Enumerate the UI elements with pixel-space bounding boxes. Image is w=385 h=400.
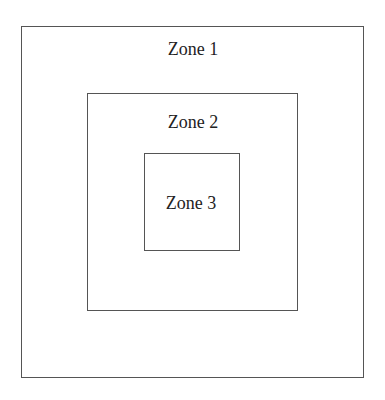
zone-1-label: Zone 1 [168, 39, 218, 60]
zone-3-label: Zone 3 [166, 193, 216, 214]
zone-2-label: Zone 2 [168, 112, 218, 133]
